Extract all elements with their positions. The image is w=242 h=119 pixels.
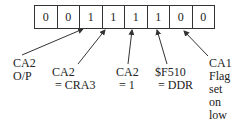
label-ca2-cra3: CA2 = CRA3 xyxy=(52,66,95,92)
arrow-ca1-flag xyxy=(184,31,208,56)
arrow-f510-ddr xyxy=(157,30,167,64)
arrow-ca2-1 xyxy=(128,30,132,64)
arrow-ca2-cra3 xyxy=(78,30,105,64)
arrow-ca2-op xyxy=(22,29,83,55)
label-f510-ddr: $F510 = DDR xyxy=(155,66,193,92)
label-ca1-flag: CA1Flagsetonlow xyxy=(209,57,232,119)
label-ca2-op: CA2O/P xyxy=(13,57,36,83)
pointer-arrows xyxy=(0,0,242,119)
label-ca2-1: CA2 = 1 xyxy=(116,66,139,92)
